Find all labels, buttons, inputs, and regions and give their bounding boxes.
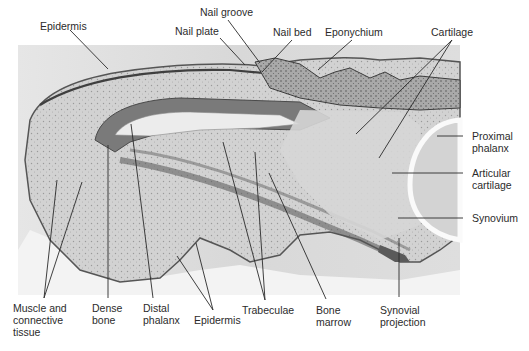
label-muscle-connective-tissue: Muscle and connective tissue	[13, 302, 67, 338]
label-nail-plate: Nail plate	[175, 25, 219, 37]
label-dense-bone: Dense bone	[92, 302, 122, 326]
label-epidermis-top: Epidermis	[40, 20, 87, 32]
label-bone-marrow: Bone marrow	[316, 304, 351, 328]
label-synovial-projection: Synovial projection	[380, 304, 426, 328]
label-epidermis-bottom: Epidermis	[194, 314, 241, 326]
label-nail-bed: Nail bed	[273, 26, 312, 38]
label-articular-cartilage: Articular cartilage	[472, 167, 512, 191]
label-proximal-phalanx: Proximal phalanx	[472, 130, 513, 154]
label-trabeculae: Trabeculae	[242, 304, 294, 316]
label-synovium: Synovium	[472, 212, 518, 224]
figure-root: Epidermis Nail groove Nail plate Nail be…	[0, 0, 529, 351]
label-nail-groove: Nail groove	[200, 6, 253, 18]
label-distal-phalanx: Distal phalanx	[143, 302, 180, 326]
label-eponychium: Eponychium	[325, 26, 383, 38]
histology-figure	[0, 0, 529, 351]
label-cartilage: Cartilage	[431, 26, 473, 38]
